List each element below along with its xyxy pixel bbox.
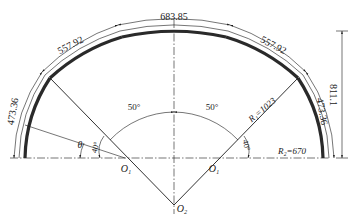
radius-r2: R₂=670 (277, 146, 307, 156)
dim-top: 683.85 (160, 11, 188, 22)
angle-left-base: 40° (90, 141, 102, 154)
dim-upper-left: 557.92 (56, 34, 85, 57)
angle-right-base: 40° (241, 139, 253, 152)
center-o1-right: O₁ (209, 163, 220, 174)
arch-section-drawing: 683.85 557.92 557.92 473.36 473.36 811.1… (0, 0, 349, 218)
center-o2: O₂ (177, 203, 188, 214)
radius-r1: R₁=1023 (246, 95, 279, 125)
center-o1-left: O₁ (121, 163, 132, 174)
angle-left-central: 50° (128, 102, 141, 112)
radius-lines (25, 78, 298, 205)
dim-lower-left: 473.36 (5, 97, 21, 126)
angle-right-central: 50° (206, 102, 219, 112)
angle-theta: θ (78, 139, 83, 150)
dim-height: 811.1 (328, 84, 339, 106)
